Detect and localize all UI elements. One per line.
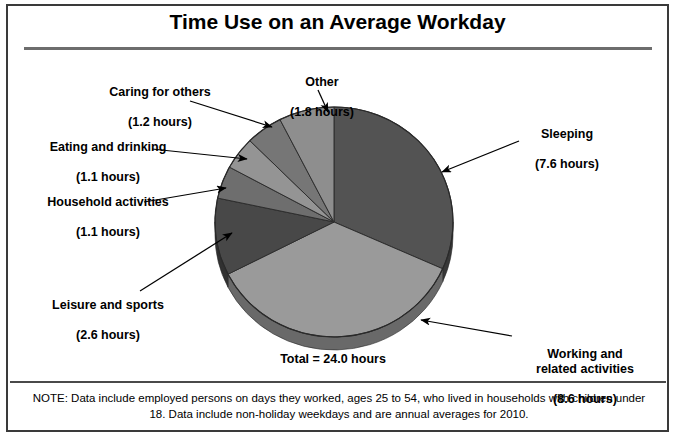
label-other-name: Other [305, 75, 338, 89]
label-caring-name: Caring for others [109, 85, 210, 99]
label-caring-for-others: Caring for others (1.2 hours) [60, 70, 260, 130]
label-working-name: Working and related activities [536, 347, 634, 376]
chart-note: NOTE: Data include employed persons on d… [28, 390, 650, 422]
total-label: Total = 24.0 hours [193, 352, 473, 366]
label-other-value: (1.8 hours) [290, 105, 354, 119]
label-sleeping: Sleeping (7.6 hours) [492, 112, 642, 172]
label-household-name: Household activities [47, 195, 169, 209]
label-sleeping-name: Sleeping [541, 127, 593, 141]
label-other: Other (1.8 hours) [252, 60, 392, 120]
label-leisure-and-sports: Leisure and sports (2.6 hours) [8, 283, 208, 343]
label-eating-and-drinking: Eating and drinking (1.1 hours) [8, 125, 208, 185]
label-eating-name: Eating and drinking [50, 140, 167, 154]
label-leisure-name: Leisure and sports [52, 298, 164, 312]
label-leisure-value: (2.6 hours) [76, 328, 140, 342]
label-sleeping-value: (7.6 hours) [535, 157, 599, 171]
chart-page: Time Use on an Average Workday [0, 0, 677, 440]
note-divider [10, 381, 666, 383]
label-household-activities: Household activities (1.1 hours) [8, 180, 208, 240]
label-household-value: (1.1 hours) [76, 225, 140, 239]
